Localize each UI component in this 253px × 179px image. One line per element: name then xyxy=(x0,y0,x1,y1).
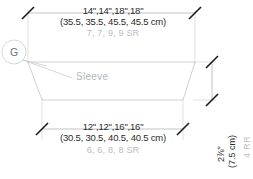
sleeve-schematic-diagram: 14",14",18",18" (35.5, 35.5, 45.5, 45.5 … xyxy=(0,0,253,179)
top-dimension-stitch-repeats: 7, 7, 9, 9 SR xyxy=(53,29,173,38)
top-dimension-inches: 14",14",18",18" xyxy=(53,6,173,16)
sleeve-outline-shape xyxy=(28,62,195,100)
callout-letter-g: G xyxy=(10,47,18,58)
bottom-dimension-inches: 12",12",16",16" xyxy=(53,122,173,132)
right-dimension-inches: 2⅞" xyxy=(217,146,226,162)
bottom-dimension-centimeters: (30.5, 30.5, 40.5, 40.5 cm) xyxy=(48,133,178,143)
right-dimension-centimeters: (7.5 cm) xyxy=(228,135,237,168)
top-dimension-centimeters: (35.5, 35.5, 45.5, 45.5 cm) xyxy=(48,17,178,27)
bottom-dimension-stitch-repeats: 6, 6, 8, 8 SR xyxy=(53,146,173,155)
right-dimension-line xyxy=(206,56,218,106)
sleeve-piece-label: Sleeve xyxy=(76,72,108,82)
right-dimension-row-repeats: 4 RR xyxy=(243,136,252,158)
